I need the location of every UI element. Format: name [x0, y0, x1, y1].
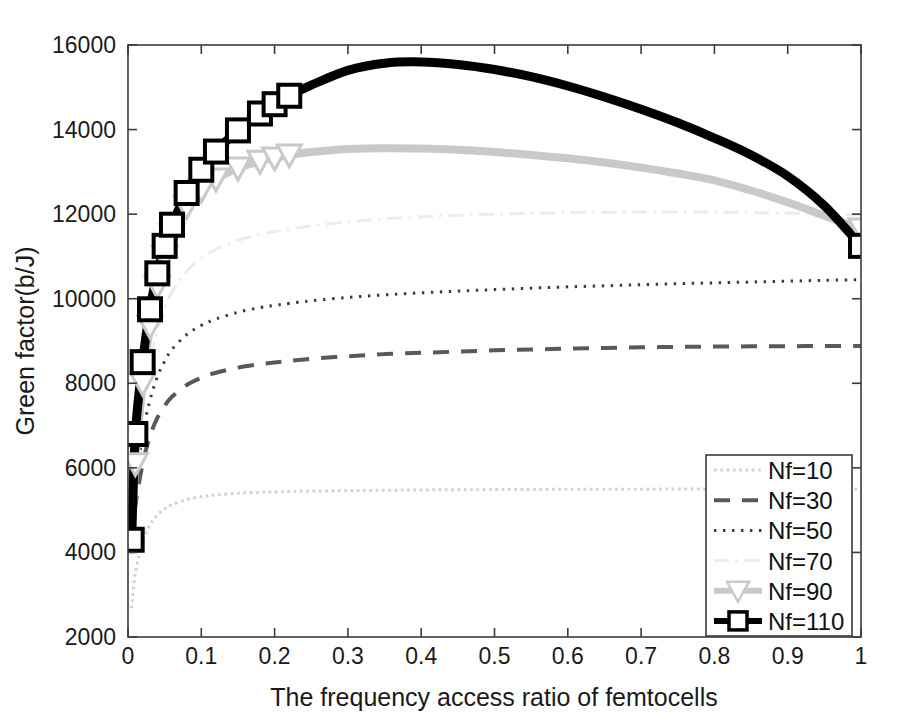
chart-legend[interactable]: Nf=10Nf=30Nf=50Nf=70Nf=90Nf=110	[706, 455, 852, 636]
x-tick-label: 0.6	[552, 643, 584, 669]
x-tick-label: 0.2	[259, 643, 291, 669]
marker-square	[278, 85, 300, 107]
marker-square	[161, 214, 183, 236]
line-chart: 00.10.20.30.40.50.60.70.80.9120004000600…	[0, 0, 907, 721]
x-tick-label: 0.8	[698, 643, 730, 669]
legend-label-nf-90: Nf=90	[768, 578, 833, 605]
x-tick-label: 0.9	[772, 643, 804, 669]
y-tick-label: 8000	[65, 370, 116, 396]
y-tick-label: 6000	[65, 455, 116, 481]
y-axis-title: Green factor(b/J)	[11, 247, 39, 436]
y-tick-label: 2000	[65, 624, 116, 650]
marker-square	[227, 119, 249, 141]
marker-square	[132, 351, 154, 373]
x-tick-label: 0	[122, 643, 135, 669]
marker-square	[146, 262, 168, 284]
x-tick-label: 0.1	[185, 643, 217, 669]
legend-label-nf-70: Nf=70	[768, 548, 833, 575]
marker-square	[121, 529, 143, 551]
marker-square	[176, 182, 198, 204]
y-tick-label: 14000	[52, 117, 116, 143]
chart-figure: 00.10.20.30.40.50.60.70.80.9120004000600…	[0, 0, 907, 721]
y-tick-label: 16000	[52, 32, 116, 58]
y-tick-label: 12000	[52, 201, 116, 227]
marker-square	[154, 235, 176, 257]
x-tick-label: 0.4	[405, 643, 437, 669]
legend-marker-square	[729, 612, 747, 630]
y-tick-label: 10000	[52, 286, 116, 312]
y-tick-label: 4000	[65, 539, 116, 565]
legend-label-nf-50: Nf=50	[768, 517, 833, 544]
marker-triangle	[123, 454, 147, 476]
x-tick-label: 0.5	[479, 643, 511, 669]
x-axis-title: The frequency access ratio of femtocells	[270, 683, 717, 711]
x-tick-label: 0.3	[332, 643, 364, 669]
marker-triangle	[131, 373, 155, 395]
x-tick-label: 0.7	[625, 643, 657, 669]
marker-square	[139, 298, 161, 320]
x-tick-label: 1	[855, 643, 868, 669]
legend-label-nf-110: Nf=110	[768, 608, 844, 635]
marker-square	[205, 141, 227, 163]
legend-label-nf-30: Nf=30	[768, 487, 833, 514]
legend-label-nf-10: Nf=10	[768, 457, 833, 484]
